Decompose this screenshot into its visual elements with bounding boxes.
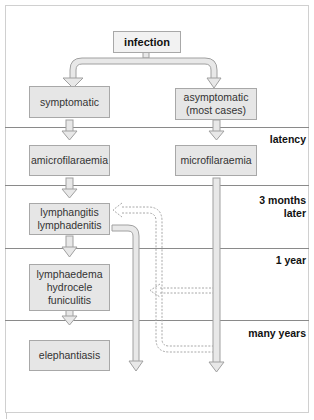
node-microfilaraemia: microfilaraemia [175,145,257,176]
time-label-3-months: 3 months later [259,194,306,220]
node-lymphangitis: lymphangitis lymphadenitis [29,203,110,235]
node-elephantiasis: elephantiasis [29,340,110,371]
node-infection: infection [113,31,181,53]
node-amicrofilaraemia: amicrofilaraemia [29,145,110,176]
node-asymptomatic: asymptomatic (most cases) [175,88,257,120]
time-label-many-years: many years [248,327,306,340]
node-symptomatic: symptomatic [29,86,110,118]
time-label-1-year: 1 year [276,254,306,267]
node-lymphaedema: lymphaedema hydrocele funiculitis [29,264,110,311]
time-label-latency: latency [270,133,306,146]
frame-corner-mark [6,413,11,419]
